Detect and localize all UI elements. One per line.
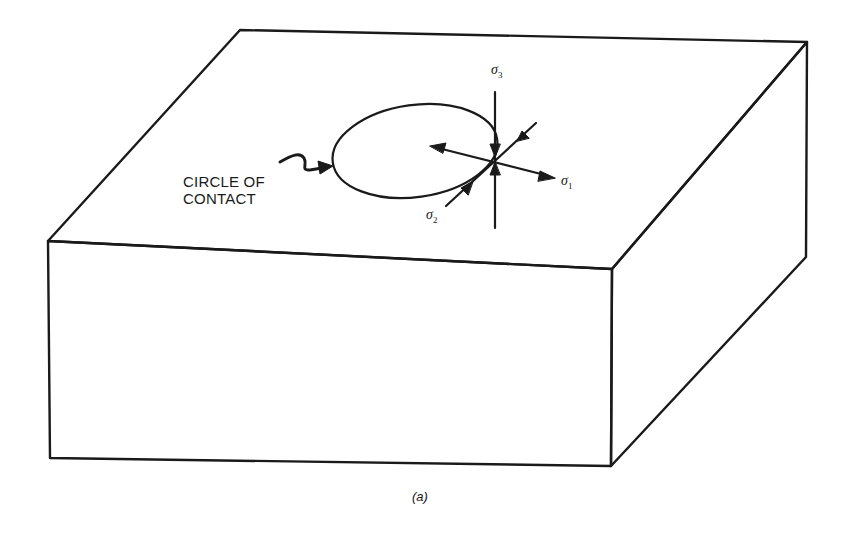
figure-caption: (a) bbox=[412, 489, 428, 504]
callout-line-1: CIRCLE OF bbox=[183, 173, 265, 190]
callout-line-2: CONTACT bbox=[183, 190, 265, 207]
figure-canvas: CIRCLE OF CONTACT σ3 σ1 σ2 (a) bbox=[0, 0, 849, 539]
block-right-face bbox=[611, 42, 807, 466]
sigma1-arrow-right-icon bbox=[538, 171, 555, 181]
circle-of-contact-ellipse bbox=[326, 94, 503, 208]
sigma3-arrow-down-icon bbox=[490, 144, 500, 157]
sigma2-label: σ2 bbox=[426, 207, 437, 225]
sigma3-label: σ3 bbox=[491, 62, 502, 80]
callout-leader-arrow bbox=[280, 155, 333, 174]
circle-of-contact-label: CIRCLE OF CONTACT bbox=[183, 173, 265, 207]
block-top-face bbox=[48, 30, 807, 269]
sigma1-arrow-left-icon bbox=[430, 143, 446, 153]
sigma1-label: σ1 bbox=[561, 173, 572, 191]
block-front-face bbox=[48, 241, 612, 466]
block-diagram bbox=[0, 0, 849, 539]
